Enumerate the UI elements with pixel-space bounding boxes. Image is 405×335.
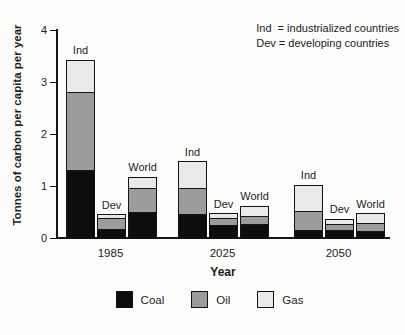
bar-2050-ind	[294, 185, 323, 239]
segment-oil	[98, 218, 125, 229]
bar-2050-dev	[325, 219, 354, 239]
bar-group-label: World	[356, 198, 385, 211]
legend-item-coal: Coal	[116, 291, 165, 308]
x-axis-title: Year	[210, 265, 235, 279]
segment-oil	[129, 188, 156, 211]
x-axis-tick-label: 1985	[98, 246, 124, 260]
legend-label: Oil	[216, 294, 230, 306]
legend-label: Gas	[282, 294, 303, 306]
segment-oil	[67, 92, 94, 170]
bar-group-label: Dev	[214, 198, 234, 211]
bar-2025-ind	[178, 161, 207, 238]
segment-coal	[129, 212, 156, 238]
bar-1985-world	[128, 177, 157, 239]
legend-swatch-coal	[116, 291, 133, 308]
bar-group-label: Ind	[301, 169, 316, 182]
abbreviation-note-dev: Dev = developing countries	[256, 36, 399, 51]
x-axis-tick-label: 2025	[210, 246, 236, 260]
y-axis-tick-label: 0	[20, 231, 47, 245]
bar-2025-dev	[209, 213, 238, 238]
legend-item-oil: Oil	[191, 291, 230, 308]
bar-2025-world	[240, 206, 269, 239]
y-axis-tick-label: 3	[20, 75, 47, 89]
y-axis-tick	[50, 30, 57, 32]
segment-coal	[98, 229, 125, 237]
bar-group-label: World	[240, 190, 269, 203]
segment-coal	[179, 214, 206, 237]
y-axis-tick	[50, 82, 57, 84]
segment-gas	[179, 162, 206, 188]
legend: CoalOilGas	[0, 291, 405, 308]
segment-coal	[210, 225, 237, 238]
segment-gas	[295, 186, 322, 211]
segment-oil	[357, 223, 384, 231]
segment-coal	[326, 230, 353, 238]
bar-group-label: Dev	[102, 199, 122, 212]
y-axis-tick-label: 2	[20, 127, 47, 141]
x-axis-tick-label: 2050	[326, 246, 352, 260]
y-axis-tick-label: 1	[20, 179, 47, 193]
segment-coal	[241, 224, 268, 238]
y-axis-tick	[50, 186, 57, 188]
segment-gas	[67, 61, 94, 92]
segment-coal	[357, 231, 384, 238]
bar-group-label: Ind	[185, 146, 200, 159]
carbon-emissions-chart: Ind = industrialized countries Dev = dev…	[0, 0, 405, 335]
bar-group-label: World	[128, 161, 157, 174]
abbreviation-note-ind: Ind = industrialized countries	[256, 21, 399, 36]
segment-oil	[179, 188, 206, 214]
bar-2050-world	[356, 213, 385, 238]
segment-coal	[67, 170, 94, 238]
bar-1985-ind	[66, 60, 95, 239]
y-axis-tick-label: 4	[20, 23, 47, 37]
y-axis-tick	[50, 238, 57, 240]
bar-group-label: Ind	[73, 44, 88, 57]
segment-oil	[241, 216, 268, 224]
y-axis-title: Tonnes of carbon per capita per year	[11, 24, 23, 225]
legend-swatch-gas	[257, 291, 274, 308]
bar-1985-dev	[97, 214, 126, 238]
legend-label: Coal	[141, 294, 165, 306]
segment-coal	[295, 230, 322, 238]
bar-group-label: Dev	[330, 203, 350, 216]
segment-oil	[295, 211, 322, 230]
y-axis-tick	[50, 134, 57, 136]
legend-item-gas: Gas	[257, 291, 303, 308]
segment-gas	[241, 207, 268, 216]
abbreviation-note: Ind = industrialized countries Dev = dev…	[256, 21, 399, 51]
segment-gas	[357, 214, 384, 223]
segment-gas	[129, 178, 156, 188]
legend-swatch-oil	[191, 291, 208, 308]
